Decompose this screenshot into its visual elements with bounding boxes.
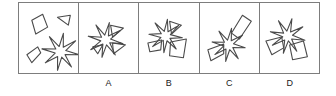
panel-option-a[interactable] <box>79 3 139 73</box>
option-label-c: C <box>199 76 259 92</box>
panel-option-a-graphic <box>79 3 138 73</box>
panel-option-c[interactable] <box>200 3 260 73</box>
option-labels-row: A B C D <box>18 76 320 92</box>
puzzle-frame <box>18 2 320 74</box>
option-label-b: B <box>139 76 199 92</box>
quadrilateral-left <box>208 44 224 61</box>
panel-prompt[interactable] <box>19 3 79 73</box>
eight-point-star <box>88 23 123 58</box>
quadrilateral-bottom-left <box>27 47 41 63</box>
option-label-d: D <box>260 76 320 92</box>
quadrilateral-lower-right <box>170 39 187 58</box>
quadrilateral-lower-right <box>289 41 307 60</box>
panel-option-b[interactable] <box>139 3 199 73</box>
eight-point-star <box>42 33 78 70</box>
panel-option-d[interactable] <box>260 3 319 73</box>
option-label-a: A <box>78 76 138 92</box>
panel-option-b-graphic <box>139 3 198 73</box>
puzzle-root: A B C D <box>0 0 336 96</box>
panel-option-d-graphic <box>260 3 319 73</box>
eight-point-star <box>212 28 245 61</box>
elongated-rectangle-upper-right <box>231 15 251 39</box>
triangle-top-right <box>57 15 70 25</box>
panel-prompt-graphic <box>19 3 78 73</box>
triangle-lower-left <box>93 45 103 54</box>
panel-option-c-graphic <box>200 3 259 73</box>
eight-point-star <box>270 19 304 53</box>
quadrilateral-lower-left <box>266 37 284 55</box>
quadrilateral-top-left <box>32 14 48 34</box>
triangle-upper-right <box>111 25 124 37</box>
